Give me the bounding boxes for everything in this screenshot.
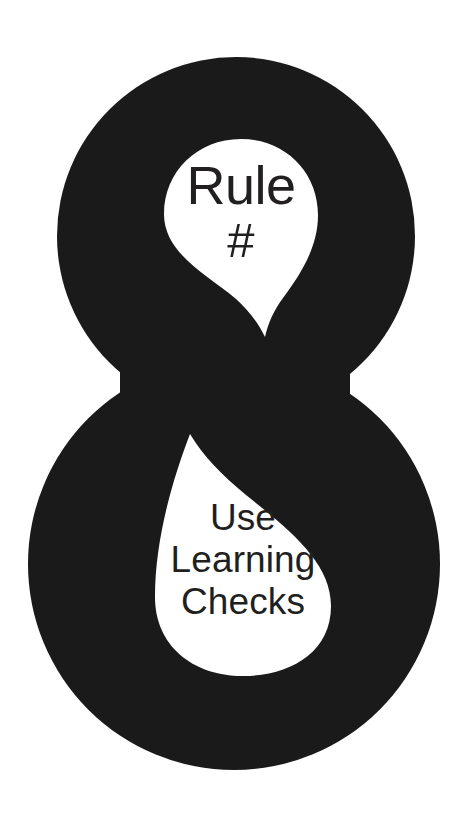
- rule-text-line-1: Use: [150, 497, 336, 539]
- rule-text-line-3: Checks: [150, 581, 336, 623]
- numeral-eight-figure: [0, 0, 470, 815]
- top-counter-text-block: Rule #: [163, 158, 319, 269]
- poster-canvas: Rule # Use Learning Checks: [0, 0, 470, 815]
- hash-symbol: #: [163, 212, 319, 269]
- bottom-counter-text-block: Use Learning Checks: [150, 497, 336, 622]
- rule-label: Rule: [163, 158, 319, 212]
- rule-text-line-2: Learning: [150, 539, 336, 581]
